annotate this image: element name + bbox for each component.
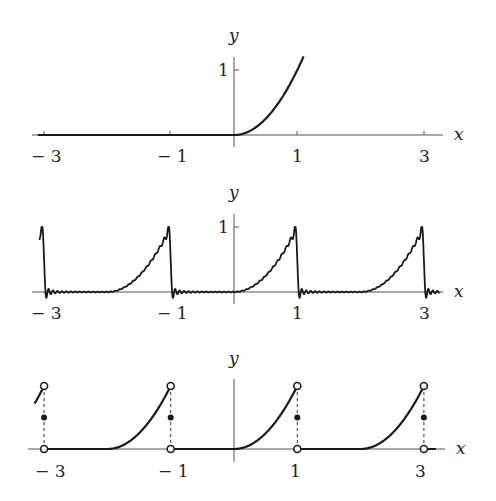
xtick-label: 3 <box>415 461 426 481</box>
xtick-label: − 1 <box>158 461 188 481</box>
xtick-label: − 3 <box>31 146 61 166</box>
open-circle-marker <box>167 446 174 453</box>
x-axis-label: x <box>454 124 464 144</box>
open-circle-marker <box>167 383 174 390</box>
figure: y x 1 − 3 − 1 1 3 y x 1 − 3 − 1 1 3 y x … <box>0 0 496 501</box>
xtick-label: − 1 <box>157 146 187 166</box>
xtick-label: 3 <box>419 146 430 166</box>
y-axis-label: y <box>228 182 239 202</box>
periodic-extension-curve <box>35 387 436 449</box>
x-axis-label: x <box>456 438 466 458</box>
xtick-label: 1 <box>290 461 301 481</box>
open-circle-marker <box>420 446 427 453</box>
ytick-label: 1 <box>218 60 229 80</box>
open-circle-marker <box>41 383 48 390</box>
y-axis-label: y <box>228 348 239 368</box>
open-circle-marker <box>420 383 427 390</box>
ytick-label: 1 <box>218 217 229 237</box>
open-circle-marker <box>294 383 301 390</box>
y-axis-label: y <box>228 25 239 45</box>
function-curve <box>38 56 304 135</box>
panel-1-function: y x 1 − 3 − 1 1 3 <box>31 25 464 166</box>
xtick-label: − 3 <box>31 303 61 323</box>
xtick-label: − 1 <box>157 303 187 323</box>
fourier-partial-sum-curve <box>39 227 440 298</box>
xtick-label: 1 <box>292 303 303 323</box>
x-axis-label: x <box>454 281 464 301</box>
open-circle-marker <box>294 446 301 453</box>
filled-midpoint-marker <box>421 415 427 421</box>
filled-midpoint-marker <box>294 415 300 421</box>
panel-3-periodic-extension: y x − 3 − 1 1 3 <box>28 348 466 481</box>
filled-midpoint-marker <box>168 415 174 421</box>
xtick-label: 3 <box>419 303 430 323</box>
open-circle-marker <box>41 446 48 453</box>
filled-midpoint-marker <box>41 415 47 421</box>
xtick-label: − 3 <box>35 461 65 481</box>
panel-2-fourier-sum: y x 1 − 3 − 1 1 3 <box>31 182 464 323</box>
xtick-label: 1 <box>292 146 303 166</box>
